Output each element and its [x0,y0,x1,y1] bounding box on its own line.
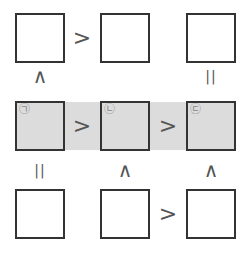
greater-than-symbol: > [70,115,94,137]
cell-label-digeut: ㉢ [190,104,201,115]
cell-r3-c2[interactable] [100,189,150,239]
cell-label-giyeok: ㉠ [19,104,30,115]
wedge-symbol: ∧ [199,160,223,180]
cell-r1-c3[interactable] [186,13,236,63]
cell-r3-c1[interactable] [15,189,65,239]
wedge-symbol: ∧ [113,160,137,180]
cell-r2-c1[interactable]: ㉠ [15,101,65,151]
cell-label-nieun: ㉡ [104,104,115,115]
equals-symbol: || [28,163,52,177]
wedge-symbol: ∧ [28,66,52,86]
greater-than-symbol: > [70,27,94,49]
equals-symbol: || [199,69,223,83]
greater-than-symbol: > [156,203,180,225]
cell-r2-c3[interactable]: ㉢ [186,101,236,151]
cell-r3-c3[interactable] [186,189,236,239]
cell-r1-c2[interactable] [100,13,150,63]
cell-r1-c1[interactable] [15,13,65,63]
greater-than-symbol: > [156,115,180,137]
cell-r2-c2[interactable]: ㉡ [100,101,150,151]
